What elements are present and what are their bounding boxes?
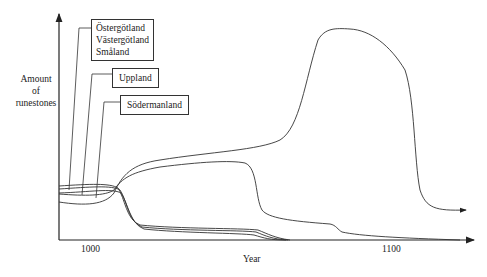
legend-label-vastergotland: Västergötland: [96, 34, 149, 46]
series-sodermanland: [59, 162, 460, 240]
x-tick-1000: 1000: [81, 244, 100, 254]
y-label-line: runestones: [12, 97, 60, 109]
legend-label-uppland: Uppland: [119, 72, 152, 84]
leader-sodermanland: [96, 102, 120, 198]
x-axis-label: Year: [243, 254, 261, 264]
chart-canvas: [0, 0, 487, 277]
leader-group1: [69, 28, 91, 190]
y-label-line: of: [12, 85, 60, 97]
series-smaland: [59, 191, 286, 240]
leader-uppland: [82, 74, 112, 195]
x-tick-1100: 1100: [382, 244, 401, 254]
legend-label-smaland: Småland: [96, 46, 149, 58]
y-axis-label: Amount of runestones: [12, 73, 60, 109]
legend-box-group1: Östergötland Västergötland Småland: [91, 19, 154, 61]
legend-box-sodermanland: Södermanland: [120, 95, 189, 115]
legend-label-ostergotland: Östergötland: [96, 22, 149, 34]
legend-box-uppland: Uppland: [112, 68, 159, 88]
y-label-line: Amount: [12, 73, 60, 85]
legend-label-sodermanland: Södermanland: [127, 99, 182, 111]
